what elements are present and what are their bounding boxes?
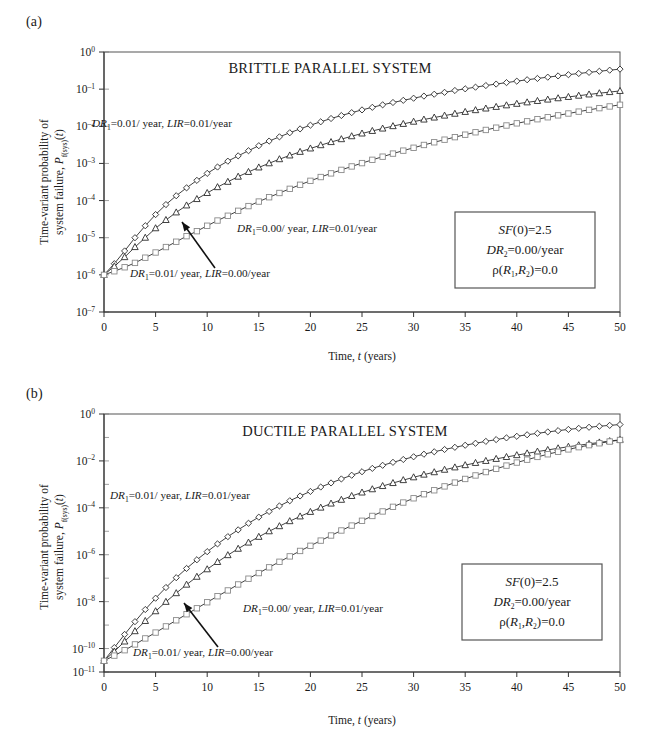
diamond-marker <box>318 484 324 490</box>
triangle-marker <box>225 552 231 558</box>
diamond-marker <box>524 432 530 438</box>
square-marker <box>215 594 220 599</box>
square-marker <box>132 260 137 265</box>
square-marker <box>194 606 199 611</box>
diamond-marker <box>369 465 375 471</box>
triangle-marker <box>183 581 189 587</box>
diamond-marker <box>266 508 272 514</box>
square-marker <box>524 119 529 124</box>
diamond-marker <box>214 164 220 170</box>
square-marker <box>566 111 571 116</box>
square-marker <box>401 148 406 153</box>
square-marker <box>597 105 602 110</box>
diamond-marker <box>297 126 303 132</box>
square-marker <box>617 102 622 107</box>
diamond-marker <box>369 104 375 110</box>
y-axis-tick-label: 10–6 <box>76 547 95 561</box>
triangle-marker <box>225 178 231 184</box>
square-marker <box>390 151 395 156</box>
square-marker <box>225 213 230 218</box>
square-marker <box>163 624 168 629</box>
diamond-marker <box>349 110 355 116</box>
square-marker <box>586 107 591 112</box>
square-marker <box>566 447 571 452</box>
svg-text:Time-variant probability of: Time-variant probability of <box>38 119 51 245</box>
diamond-marker <box>462 86 468 92</box>
y-axis-tick-label: 10–7 <box>76 305 95 319</box>
diamond-marker <box>452 87 458 93</box>
diamond-marker <box>225 158 231 164</box>
square-marker <box>235 582 240 587</box>
x-axis-tick-label: 0 <box>101 321 107 333</box>
diamond-marker <box>472 440 478 446</box>
square-marker <box>308 178 313 183</box>
diamond-marker <box>276 134 282 140</box>
square-marker <box>112 269 117 274</box>
y-axis-tick-label: 10–2 <box>76 453 95 467</box>
x-axis-tick-label: 30 <box>408 321 420 333</box>
diamond-marker <box>328 115 334 121</box>
square-marker <box>359 518 364 523</box>
square-marker <box>473 130 478 135</box>
y-axis-title: Time-variant probability ofsystem failur… <box>38 484 69 610</box>
triangle-marker <box>163 598 169 604</box>
square-marker <box>122 265 127 270</box>
square-marker <box>421 142 426 147</box>
square-marker <box>266 195 271 200</box>
curve-label-dr1-001-lir-000: DR1=0.01/ year, LIR=0.00/year <box>129 267 270 282</box>
diamond-marker <box>441 446 447 452</box>
square-marker <box>555 449 560 454</box>
diamond-marker <box>524 77 530 83</box>
diamond-marker <box>380 102 386 108</box>
svg-text:system failure, Pf(sys)(t): system failure, Pf(sys)(t) <box>53 129 69 235</box>
triangle-marker <box>214 184 220 190</box>
x-axis-tick-label: 15 <box>253 321 265 333</box>
diamond-marker <box>245 148 251 154</box>
square-marker <box>101 272 106 277</box>
diamond-marker <box>452 444 458 450</box>
diamond-marker <box>421 451 427 457</box>
diamond-marker <box>359 469 365 475</box>
triangle-marker <box>276 523 282 529</box>
square-marker <box>266 565 271 570</box>
diamond-marker <box>307 122 313 128</box>
square-marker <box>205 223 210 228</box>
square-marker <box>432 488 437 493</box>
infobox-line-dr2: DR2=0.00/year <box>492 594 571 611</box>
diamond-marker <box>338 476 344 482</box>
diamond-marker <box>421 93 427 99</box>
square-marker <box>246 576 251 581</box>
diamond-marker <box>493 437 499 443</box>
diamond-marker <box>441 89 447 95</box>
square-marker <box>586 442 591 447</box>
square-marker <box>535 454 540 459</box>
x-axis-tick-label: 0 <box>101 681 107 693</box>
square-marker <box>122 648 127 653</box>
square-marker <box>287 554 292 559</box>
diamond-marker <box>256 143 262 149</box>
square-marker <box>112 653 117 658</box>
square-marker <box>617 437 622 442</box>
diamond-marker <box>380 462 386 468</box>
square-marker <box>463 476 468 481</box>
diamond-marker <box>586 424 592 430</box>
diamond-marker <box>204 170 210 176</box>
square-marker <box>401 500 406 505</box>
triangle-marker <box>617 87 623 93</box>
diamond-marker <box>617 66 623 72</box>
square-marker <box>256 570 261 575</box>
square-marker <box>318 538 323 543</box>
diamond-marker <box>235 527 241 533</box>
triangle-marker <box>214 558 220 564</box>
y-axis-tick-label: 10–11 <box>72 665 95 679</box>
diamond-marker <box>534 75 540 81</box>
panel-title: BRITTLE PARALLEL SYSTEM <box>228 60 431 76</box>
square-marker <box>318 174 323 179</box>
diamond-marker <box>555 73 561 79</box>
triangle-marker <box>235 545 241 551</box>
x-axis-tick-label: 30 <box>408 681 420 693</box>
triangle-marker <box>173 590 179 596</box>
brittle-parallel-system-chart: 10010–110–210–310–410–510–610–7051015202… <box>0 0 661 371</box>
x-axis-tick-label: 35 <box>459 321 471 333</box>
curve-label-dr1-001-lir-001: DR1=0.01/ year, LIR=0.01/year <box>109 489 250 504</box>
